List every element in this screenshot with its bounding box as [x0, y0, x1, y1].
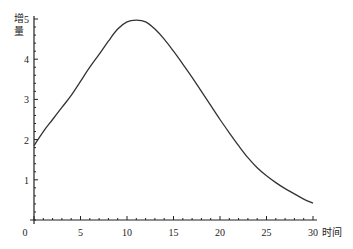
- ticks: [34, 19, 313, 220]
- x-tick-label: 20: [215, 227, 225, 238]
- line-chart: 05101520253012345 增 量 时间: [0, 0, 353, 249]
- y-tick-label: 2: [24, 135, 29, 146]
- x-tick-label: 10: [122, 227, 132, 238]
- y-axis-label: 增: [14, 12, 24, 24]
- x-tick-label: 0: [23, 227, 28, 238]
- x-tick-label: 15: [169, 227, 179, 238]
- y-tick-label: 1: [24, 175, 29, 186]
- x-axis-label: 时间: [322, 226, 342, 238]
- y-tick-label: 5: [24, 14, 29, 25]
- x-tick-label: 30: [308, 227, 318, 238]
- x-tick-label: 5: [78, 227, 83, 238]
- y-tick-label: 4: [24, 54, 29, 65]
- axes: [30, 16, 317, 224]
- x-tick-label: 25: [262, 227, 272, 238]
- y-axis-label-2: 量: [14, 26, 24, 37]
- data-line: [34, 20, 313, 203]
- y-tick-label: 3: [24, 94, 29, 105]
